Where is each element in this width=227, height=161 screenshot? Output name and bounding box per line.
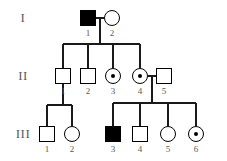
individual-iii5-unaffected-female[interactable]: [160, 126, 176, 142]
individual-iii3-affected-male[interactable]: [105, 126, 121, 142]
individual-label-iii5: 5: [161, 145, 175, 154]
generation-label-2: II: [12, 69, 34, 82]
individual-label-iii1: 1: [40, 145, 54, 154]
individual-label-i1: 1: [81, 29, 95, 38]
individual-iii4-unaffected-male[interactable]: [132, 126, 148, 142]
individual-label-iii3: 3: [106, 145, 120, 154]
individual-label-iii6: 6: [189, 145, 203, 154]
individual-label-iii4: 4: [133, 145, 147, 154]
individual-label-ii1: 1: [56, 87, 70, 96]
individual-label-iii2: 2: [65, 145, 79, 154]
pedigree-chart: I II III 1 2 1 2 3 4 5 1 2 3 4 5 6: [0, 0, 227, 161]
individual-label-ii4: 4: [133, 87, 147, 96]
individual-ii5-unaffected-male[interactable]: [156, 68, 172, 84]
generation-label-3: III: [9, 127, 37, 140]
generation-label-1: I: [14, 11, 32, 24]
individual-label-i2: 2: [105, 29, 119, 38]
individual-ii2-unaffected-male[interactable]: [80, 68, 96, 84]
individual-label-ii2: 2: [81, 87, 95, 96]
individual-iii1-unaffected-male[interactable]: [39, 126, 55, 142]
individual-ii1-unaffected-male[interactable]: [55, 68, 71, 84]
individual-iii2-unaffected-female[interactable]: [64, 126, 80, 142]
individual-ii3-carrier-female[interactable]: [105, 68, 121, 84]
individual-ii4-carrier-female[interactable]: [132, 68, 148, 84]
individual-label-ii3: 3: [106, 87, 120, 96]
individual-i2-unaffected-female[interactable]: [104, 10, 120, 26]
individual-label-ii5: 5: [157, 87, 171, 96]
individual-i1-affected-male[interactable]: [80, 10, 96, 26]
individual-iii6-carrier-female[interactable]: [188, 126, 204, 142]
